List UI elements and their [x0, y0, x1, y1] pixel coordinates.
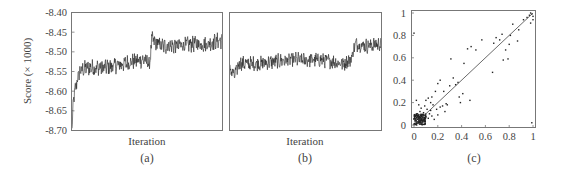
scatter-point: [430, 102, 431, 103]
scatter-point: [425, 100, 426, 101]
scatter-point: [414, 114, 415, 115]
scatter-point: [460, 102, 461, 103]
figure: -8.40-8.45-8.50-8.55-8.60-8.65-8.70 Scor…: [0, 0, 561, 173]
scatter-point: [532, 16, 533, 17]
scatter-point: [431, 115, 432, 116]
y-tick-label: -8.45: [45, 27, 67, 38]
scatter-point: [424, 105, 425, 106]
scatter-point: [428, 118, 429, 119]
scatter-point: [439, 80, 440, 81]
scatter-point: [426, 109, 427, 110]
scatter-point: [532, 19, 533, 20]
y-axis-title: Score (× 1000): [21, 38, 34, 104]
scatter-point: [475, 49, 476, 50]
scatter-point: [518, 29, 519, 30]
y-tick-label: -8.65: [45, 105, 67, 116]
scatter-point: [462, 93, 463, 94]
reference-diagonal-line: [414, 13, 533, 125]
scatter-point: [470, 46, 471, 47]
x-tick-label: 0.8: [503, 131, 516, 142]
scatter-point: [434, 119, 435, 120]
scatter-point: [503, 59, 504, 60]
scatter-point: [428, 97, 429, 98]
y-tick-label: -8.70: [45, 125, 67, 136]
panel-a: -8.40-8.45-8.50-8.55-8.60-8.65-8.70 Scor…: [21, 7, 223, 165]
plot-frame: [230, 13, 382, 131]
y-tick-label: -8.50: [45, 46, 67, 57]
y-tick-label: 1: [401, 8, 406, 19]
scatter-point: [499, 39, 500, 40]
panel-label: (c): [467, 151, 480, 165]
y-tick-label: 0: [401, 120, 406, 131]
scatter-point: [429, 113, 430, 114]
scatter-point: [444, 111, 445, 112]
scatter-point: [509, 44, 510, 45]
scatter-point: [447, 104, 448, 105]
scatter-point: [416, 100, 417, 101]
scatter-point: [416, 124, 417, 125]
scatter-point: [492, 72, 493, 73]
panel-label: (b): [298, 151, 312, 165]
scatter-point: [420, 115, 421, 116]
y-tick-label: -8.40: [45, 7, 67, 18]
y-tick-label: -8.55: [45, 66, 67, 77]
scatter-point: [507, 58, 508, 59]
scatter-point: [425, 118, 426, 119]
scatter-point: [419, 117, 420, 118]
scatter-point: [450, 58, 451, 59]
series-line: [72, 31, 222, 128]
scatter-point: [495, 37, 496, 38]
scatter-point: [459, 96, 460, 97]
scatter-point: [436, 109, 437, 110]
scatter-point: [453, 77, 454, 78]
axis-ticks: 00.20.40.60.8100.20.40.60.81: [393, 8, 536, 143]
scatter-point: [437, 114, 438, 115]
panel-b: Iteration (b): [230, 13, 382, 166]
scatter-point: [517, 40, 518, 41]
scatter-point: [432, 104, 433, 105]
scatter-point: [437, 83, 438, 84]
scatter-point: [421, 123, 422, 124]
y-tick-label: 0.6: [393, 52, 406, 63]
scatter-point: [420, 123, 421, 124]
scatter-point: [449, 85, 450, 86]
scatter-point: [424, 123, 425, 124]
y-tick-label: -8.60: [45, 86, 67, 97]
scatter-point: [469, 100, 470, 101]
scatter-point: [505, 49, 506, 50]
scatter-point: [531, 122, 532, 123]
x-axis-title: Iteration: [128, 135, 166, 147]
scatter-point: [413, 32, 414, 33]
scatter-point: [413, 118, 414, 119]
scatter-point: [523, 19, 524, 20]
scatter-point: [442, 105, 443, 106]
y-tick-label: 0.8: [393, 30, 406, 41]
x-tick-label: 0.4: [455, 131, 469, 142]
scatter-point: [431, 96, 432, 97]
scatter-point: [530, 22, 531, 23]
x-tick-label: 0.2: [431, 131, 444, 142]
panel-label: (a): [140, 151, 153, 165]
scatter-point: [512, 24, 513, 25]
scatter-point: [420, 108, 421, 109]
scatter-point: [423, 112, 424, 113]
series-line: [230, 38, 381, 78]
x-tick-label: 1: [530, 131, 535, 142]
scatter-point: [415, 119, 416, 120]
scatter-point: [493, 43, 494, 44]
scatter-point: [425, 115, 426, 116]
scatter-point: [418, 104, 419, 105]
scatter-point: [481, 39, 482, 40]
y-axis-ticks: -8.40-8.45-8.50-8.55-8.60-8.65-8.70: [45, 7, 74, 136]
scatter-point: [439, 106, 440, 107]
line-series: [230, 38, 381, 78]
scatter-point: [467, 48, 468, 49]
x-tick-label: 0.6: [479, 131, 492, 142]
x-tick-label: 0: [411, 131, 416, 142]
scatter-point: [501, 34, 502, 35]
scatter-point: [463, 63, 464, 64]
line-series: [72, 31, 222, 128]
y-tick-label: 0.2: [393, 97, 406, 108]
panel-c: 00.20.40.60.8100.20.40.60.81 (c): [393, 8, 536, 166]
scatter-point: [417, 116, 418, 117]
